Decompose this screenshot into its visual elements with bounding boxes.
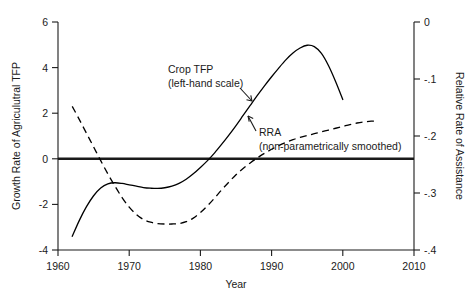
x-tick-label-1980: 1980 [189, 260, 213, 272]
x-tick-label-1990: 1990 [260, 260, 284, 272]
x-tick-label-1960: 1960 [46, 260, 70, 272]
x-axis-title: Year [225, 278, 247, 290]
annotation-crop-tfp-line2: (left-hand scale) [168, 77, 243, 89]
y2-axis-title: Relative Rate of Assistance [454, 72, 466, 200]
axis-frame [58, 22, 414, 250]
left-tick-label-2: 2 [42, 107, 48, 119]
left-tick-label-6: 6 [42, 16, 48, 28]
right-axis-ticks [414, 22, 420, 250]
chart-figure: 6 4 2 0 -2 -4 0 -.1 -.2 -.3 -.4 [0, 0, 473, 296]
annotation-crop-tfp: Crop TFP (left-hand scale) [168, 63, 252, 101]
left-tick-label-4: 4 [42, 62, 48, 74]
right-tick-label-neg1: -.1 [424, 73, 436, 85]
left-tick-label-0: 0 [42, 153, 48, 165]
y-axis-title: Growth Rate of Agriculutral TFP [10, 62, 22, 210]
right-tick-label-neg3: -.3 [424, 187, 436, 199]
x-tick-label-1970: 1970 [118, 260, 142, 272]
annotation-crop-tfp-line1: Crop TFP [168, 63, 213, 75]
x-tick-label-2010: 2010 [402, 260, 426, 272]
annotation-rra-line1: RRA [259, 126, 281, 138]
left-tick-label-neg4: -4 [39, 244, 48, 256]
left-axis-ticks [52, 22, 58, 250]
right-tick-label-0: 0 [424, 16, 430, 28]
right-axis-tick-labels: 0 -.1 -.2 -.3 -.4 [424, 16, 436, 256]
annotation-rra-line2: (non-parametrically smoothed) [259, 140, 401, 152]
right-tick-label-neg2: -.2 [424, 130, 436, 142]
annotation-rra: RRA (non-parametrically smoothed) [248, 116, 401, 152]
x-axis-ticks [58, 250, 414, 256]
left-axis-tick-labels: 6 4 2 0 -2 -4 [39, 16, 49, 256]
left-tick-label-neg2: -2 [39, 198, 48, 210]
right-tick-label-neg4: -.4 [424, 244, 436, 256]
tfp-rra-line-chart: 6 4 2 0 -2 -4 0 -.1 -.2 -.3 -.4 [0, 0, 473, 296]
x-tick-label-2000: 2000 [331, 260, 355, 272]
series-line-rra [72, 106, 378, 224]
annotation-crop-tfp-arrow-shaft [240, 88, 252, 101]
x-axis-tick-labels: 1960 1970 1980 1990 2000 2010 [46, 260, 426, 272]
